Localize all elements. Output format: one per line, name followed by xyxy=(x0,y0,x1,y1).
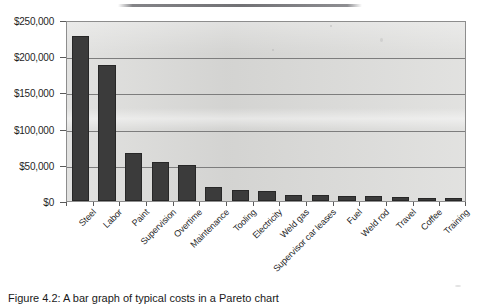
x-axis-tick-label: Fuel xyxy=(345,207,364,226)
y-axis-tick-label: $200,000 xyxy=(14,52,54,63)
y-axis-tick-label: $0 xyxy=(43,197,54,208)
bar xyxy=(205,187,222,201)
bar-slot xyxy=(200,22,227,201)
scan-speckle xyxy=(272,49,274,51)
x-axis-tick xyxy=(359,202,360,206)
bar-slot xyxy=(360,22,387,201)
x-axis-tick xyxy=(413,202,414,206)
x-axis-tick-label: Labor xyxy=(101,207,124,230)
x-axis-tick xyxy=(199,202,200,206)
bar xyxy=(338,196,355,201)
bar-slot xyxy=(307,22,334,201)
scan-speckle xyxy=(455,285,461,287)
bar-slot xyxy=(120,22,147,201)
x-axis-tick xyxy=(439,202,440,206)
plot-area xyxy=(66,21,466,202)
bar-series xyxy=(67,22,465,201)
x-axis-tick-label: Coffee xyxy=(419,207,444,232)
bar xyxy=(285,195,302,201)
bar xyxy=(312,195,329,201)
bar-slot xyxy=(147,22,174,201)
bar xyxy=(232,190,249,201)
bar xyxy=(258,191,275,201)
bar-slot xyxy=(414,22,441,201)
x-axis-tick-label: Paint xyxy=(130,207,151,228)
bar-slot xyxy=(94,22,121,201)
bar-slot xyxy=(387,22,414,201)
x-axis-tick-label: Travel xyxy=(394,207,418,231)
y-axis-tick-label: $50,000 xyxy=(19,160,54,171)
scan-speckle xyxy=(380,38,383,42)
x-axis-tick-label: Weld rod xyxy=(359,207,391,239)
bar-slot xyxy=(280,22,307,201)
bar xyxy=(125,153,142,202)
figure-container: $0$50,000$100,000$150,000$200,000$250,00… xyxy=(0,0,482,304)
bar xyxy=(152,162,169,201)
scan-speckle xyxy=(330,25,332,27)
x-axis-tick-label: Steel xyxy=(76,207,97,228)
x-axis-tick xyxy=(119,202,120,206)
x-axis-tick xyxy=(173,202,174,206)
x-axis-tick xyxy=(333,202,334,206)
bar-slot xyxy=(254,22,281,201)
x-axis-tick xyxy=(306,202,307,206)
x-axis-tick xyxy=(279,202,280,206)
scan-line-artifact xyxy=(118,4,362,7)
x-axis-tick xyxy=(226,202,227,206)
y-axis-tick-label: $100,000 xyxy=(14,124,54,135)
bar-slot xyxy=(440,22,466,201)
bar xyxy=(445,198,462,201)
bar-slot xyxy=(227,22,254,201)
y-axis-tick-label: $150,000 xyxy=(14,88,54,99)
x-axis-tick xyxy=(253,202,254,206)
x-axis-tick-label: Training xyxy=(442,207,471,236)
bar-slot xyxy=(67,22,94,201)
y-axis-tick-label: $250,000 xyxy=(14,16,54,27)
bar xyxy=(98,65,115,201)
x-axis-tick xyxy=(386,202,387,206)
bar xyxy=(178,165,195,201)
figure-caption: Figure 4.2: A bar graph of typical costs… xyxy=(8,292,428,304)
y-axis: $0$50,000$100,000$150,000$200,000$250,00… xyxy=(0,21,60,202)
bar xyxy=(72,36,89,201)
bar xyxy=(392,197,409,201)
x-axis-tick xyxy=(146,202,147,206)
x-axis-labels: SteelLaborPaintSupervisionOvertimeMainte… xyxy=(66,207,482,297)
x-axis-tick xyxy=(66,202,67,206)
bar xyxy=(418,198,435,201)
bar-slot xyxy=(174,22,201,201)
x-axis-tick xyxy=(465,202,466,206)
x-axis-tick xyxy=(93,202,94,206)
bar xyxy=(365,196,382,201)
bar-slot xyxy=(334,22,361,201)
